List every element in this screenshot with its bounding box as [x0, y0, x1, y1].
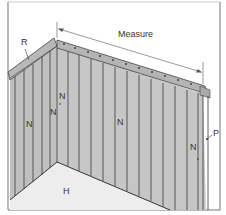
slat-label-n-2: N	[50, 108, 57, 117]
blinds-diagram: Measure R N N N N N P H	[0, 0, 226, 215]
floor-label-h: H	[63, 187, 70, 196]
slat-label-n-4: N	[117, 118, 124, 127]
pull-label-p: P	[213, 129, 219, 138]
slat-label-n-3: N	[26, 120, 33, 129]
slat-label-n-1: N	[59, 92, 66, 101]
measure-label: Measure	[118, 30, 153, 39]
slat-label-n-5: N	[190, 143, 197, 152]
rail-label-r: R	[21, 38, 28, 47]
diagram-illustration	[0, 0, 226, 215]
